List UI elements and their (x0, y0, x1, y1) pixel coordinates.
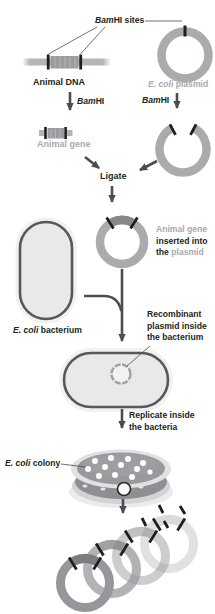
ecoli-colony-label: E. coli colony (5, 458, 60, 468)
diagram-graphics (0, 0, 215, 614)
replicate-note: Replicate inside the bacteria (129, 410, 194, 433)
transform-elbow-line (84, 296, 121, 311)
bamhi-sites-label: BamHI sites (95, 15, 144, 25)
ecoli-plasmid-label: E. coli plasmid (148, 79, 208, 89)
bamhi-right-label: BamHI (142, 95, 169, 105)
ligate-label: Ligate (100, 171, 127, 181)
ligate-left-arrow (85, 157, 99, 168)
animal-gene-label: Animal gene (37, 139, 91, 149)
insert-note: Animal gene inserted into the plasmid (156, 224, 208, 259)
recombinant-plasmid-ring (100, 217, 144, 264)
transformed-bacterium-cell (59, 346, 173, 412)
cut-plasmid-ring (160, 124, 207, 172)
recombinant-note: Recombinant plasmid inside the bacterium (147, 309, 207, 344)
animal-gene-fragment (39, 127, 73, 139)
gene-cloning-diagram: BamHI sites Animal DNA BamHI E. coli pla… (0, 0, 215, 614)
ecoli-bacterium-label: E. coli bacterium (13, 325, 82, 335)
bamhi-left-label: BamHI (77, 96, 104, 106)
selected-colony-marker (118, 483, 131, 496)
animal-dna-label: Animal DNA (33, 77, 85, 87)
ligate-right-arrow (140, 161, 157, 170)
cloned-plasmids (61, 505, 194, 608)
ecoli-bacterium-cell (16, 218, 77, 324)
ecoli-plasmid-ring (162, 26, 209, 79)
petri-dish (61, 450, 173, 509)
animal-dna-fragment (22, 55, 111, 70)
